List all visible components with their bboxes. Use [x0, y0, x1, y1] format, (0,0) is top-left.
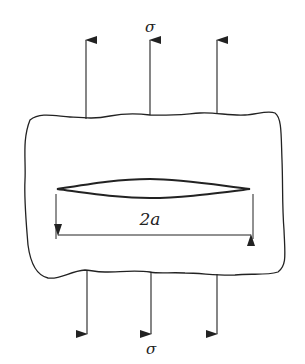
bottom-stress-arrows: [87, 270, 217, 334]
crack: [57, 179, 250, 198]
crack-plate-diagram: σ 2a σ: [0, 0, 305, 364]
plate-outline: [25, 112, 285, 278]
crack-length-label: 2a: [139, 209, 161, 229]
stress-label-bottom: σ: [146, 340, 157, 358]
top-stress-arrows: [86, 40, 217, 119]
stress-label-top: σ: [145, 18, 156, 36]
